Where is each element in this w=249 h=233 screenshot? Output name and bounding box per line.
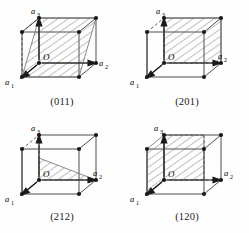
svg-text:1: 1 <box>136 83 139 89</box>
svg-text:3: 3 <box>37 12 40 18</box>
plane-120 <box>147 135 204 194</box>
caption-011: (011) <box>0 96 124 107</box>
axis-label-a3: a <box>31 123 35 133</box>
axis-label-a2: a <box>99 58 103 68</box>
panel-212: a 3 a 2 a 1 O (212) <box>0 117 124 233</box>
svg-text:2: 2 <box>230 174 233 180</box>
origin-label: O <box>168 52 175 62</box>
caption-212: (212) <box>0 211 124 222</box>
axis-label-a1: a <box>130 194 134 204</box>
svg-text:3: 3 <box>162 12 165 18</box>
svg-text:1: 1 <box>11 83 14 89</box>
axis-label-a2: a <box>224 168 228 178</box>
svg-text:3: 3 <box>160 129 163 135</box>
svg-text:1: 1 <box>136 200 139 206</box>
svg-text:1: 1 <box>11 200 14 206</box>
axis-label-a3: a <box>31 6 35 16</box>
origin-label: O <box>168 169 175 179</box>
svg-text:2: 2 <box>224 57 227 63</box>
panel-201: a 3 a 2 a 1 O (201) <box>125 0 249 116</box>
miller-index-figure: a 3 a 2 a 1 O (011) <box>0 0 249 233</box>
axis-label-a3: a <box>156 6 160 16</box>
svg-text:2: 2 <box>99 174 102 180</box>
axis-label-a2: a <box>218 51 222 61</box>
svg-text:3: 3 <box>37 129 40 135</box>
caption-201: (201) <box>125 96 249 107</box>
caption-120: (120) <box>125 211 249 222</box>
svg-text:2: 2 <box>105 64 108 70</box>
panel-120: a 3 a 2 a 1 O (120) <box>125 117 249 233</box>
origin-label: O <box>43 169 50 179</box>
axis-label-a3: a <box>154 123 158 133</box>
origin-label: O <box>43 52 50 62</box>
axis-label-a2: a <box>93 168 97 178</box>
axis-label-a1: a <box>130 77 134 87</box>
axis-label-a1: a <box>5 194 9 204</box>
axis-label-a1: a <box>5 77 9 87</box>
panel-011: a 3 a 2 a 1 O (011) <box>0 0 124 116</box>
